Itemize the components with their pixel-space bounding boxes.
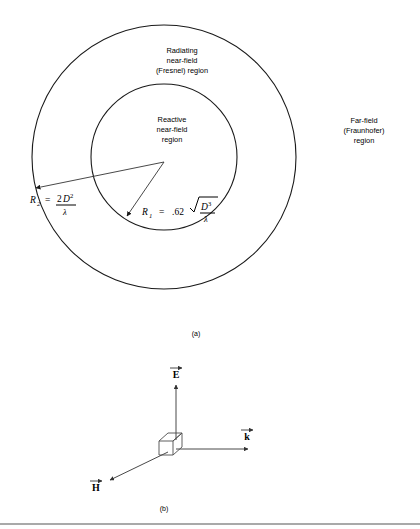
e-label-text: E [173, 369, 180, 380]
panel-b: E k H (b) [90, 368, 253, 513]
formula-r2-numerator-exponent: 2 [70, 192, 73, 199]
origin-cube [159, 433, 182, 455]
formula-r2: R 2 = 2 D 2 λ [29, 192, 76, 217]
formula-r2-equals: = [45, 195, 50, 205]
reactive-line-3: region [162, 135, 183, 144]
k-label-text: k [244, 431, 250, 442]
far-field-line-3: region [354, 136, 375, 145]
formula-r2-numerator-coeff: 2 [57, 194, 62, 204]
formula-r2-denominator: λ [62, 207, 67, 217]
region-label-far-field: Far-field (Fraunhofer) region [343, 116, 384, 145]
formula-r1: R 1 = .62 D 3 λ [141, 197, 218, 224]
panel-b-caption: (b) [160, 505, 169, 513]
reactive-line-2: near-field [157, 125, 188, 134]
region-label-radiating-near-field: Radiating near-field (Fresnel) region [156, 46, 208, 75]
radiating-line-3: (Fresnel) region [156, 66, 208, 75]
h-field-vector-label: H [90, 481, 102, 493]
outer-boundary-circle [32, 25, 296, 289]
antenna-field-regions-figure: Radiating near-field (Fresnel) region Re… [0, 0, 420, 529]
panel-a: Radiating near-field (Fresnel) region Re… [29, 25, 385, 338]
k-wave-vector-label: k [241, 430, 253, 442]
formula-r1-subscript: 1 [149, 212, 152, 219]
radiating-line-1: Radiating [166, 46, 197, 55]
e-field-vector-label: E [170, 368, 182, 380]
far-field-line-1: Far-field [350, 116, 377, 125]
reactive-line-1: Reactive [158, 115, 187, 124]
formula-r1-radicand-var: D [200, 202, 208, 212]
formula-r1-radicand-exponent: 3 [208, 200, 212, 207]
formula-r2-symbol: R [29, 195, 36, 205]
formula-r1-coefficient: .62 [172, 207, 184, 217]
cube-top-face [159, 433, 182, 441]
h-field-vector-arrow [110, 452, 168, 480]
formula-r1-denominator: λ [203, 214, 208, 224]
formula-r2-numerator-var: D [62, 194, 70, 204]
region-label-reactive-near-field: Reactive near-field region [157, 115, 188, 144]
h-label-text: H [92, 482, 100, 493]
cube-right-face [173, 433, 182, 455]
radiating-line-2: near-field [167, 56, 198, 65]
panel-a-caption: (a) [192, 330, 201, 338]
r2-radius-arrow [36, 162, 164, 188]
formula-r1-symbol: R [141, 207, 148, 217]
figure-container: Radiating near-field (Fresnel) region Re… [0, 0, 420, 529]
far-field-line-2: (Fraunhofer) [343, 126, 384, 135]
formula-r1-equals: = [159, 207, 164, 217]
